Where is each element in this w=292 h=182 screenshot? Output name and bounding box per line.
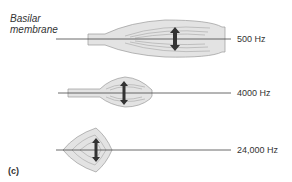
- frequency-label-4000: 4000 Hz: [237, 88, 271, 98]
- panel-label: (c): [8, 166, 19, 176]
- label-line-1: Basilar: [10, 13, 58, 24]
- basilar-membrane-label: Basilar membrane: [10, 13, 58, 35]
- vibration-envelope-500hz: [56, 20, 231, 57]
- frequency-label-24000: 24,000 Hz: [237, 145, 278, 155]
- vibration-envelope-24000hz: [56, 128, 231, 172]
- label-line-2: membrane: [10, 24, 58, 35]
- frequency-label-500: 500 Hz: [237, 34, 266, 44]
- vibration-envelope-4000hz: [58, 77, 231, 107]
